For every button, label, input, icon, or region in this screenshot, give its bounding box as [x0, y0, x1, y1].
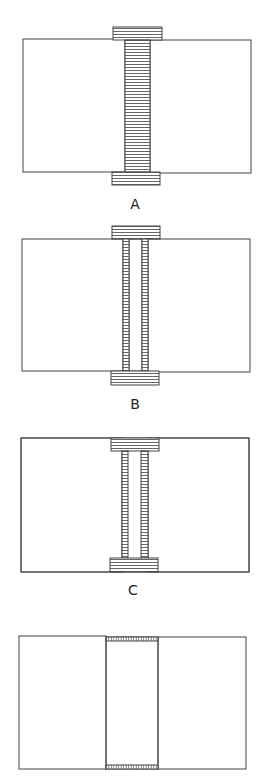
panel-label-b: B — [130, 396, 140, 412]
left-strip — [123, 239, 129, 371]
panel-label-a: A — [130, 196, 140, 212]
outline — [106, 637, 158, 769]
right-strip — [142, 239, 148, 371]
top-cap — [113, 27, 162, 40]
right-block — [148, 438, 249, 572]
panel-b — [22, 226, 250, 385]
left-block — [21, 438, 122, 572]
left-block — [23, 39, 125, 172]
bottom-cap — [112, 172, 160, 185]
right-block — [158, 637, 246, 769]
right-block — [148, 239, 250, 372]
top-strip — [106, 637, 158, 641]
right-strip — [141, 451, 148, 558]
top-cap — [112, 226, 160, 239]
diagram-canvas — [0, 0, 267, 780]
panel-a — [23, 27, 251, 185]
stem — [125, 40, 150, 172]
left-block — [19, 636, 106, 769]
bottom-strip — [106, 765, 158, 769]
left-strip — [122, 451, 128, 558]
bottom-cap — [110, 558, 158, 572]
panel-d — [19, 636, 246, 769]
top-cap — [111, 438, 159, 451]
panel-c — [21, 438, 249, 572]
right-block — [150, 40, 251, 173]
panel-label-c: C — [128, 582, 138, 598]
outline — [129, 239, 142, 371]
bottom-cap — [111, 371, 159, 385]
left-block — [22, 239, 123, 371]
